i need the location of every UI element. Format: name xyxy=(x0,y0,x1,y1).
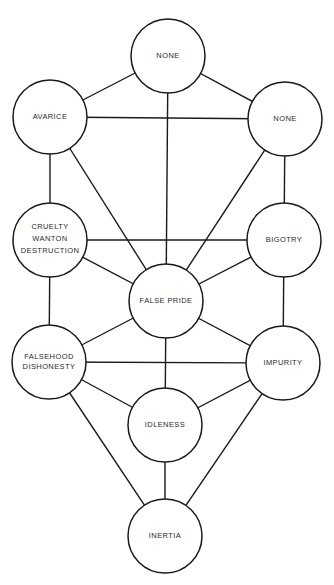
tree-diagram: NONEAVARICENONECRUELTYWANTONDESTRUCTIONB… xyxy=(0,0,334,585)
node-label: INERTIA xyxy=(149,531,181,540)
node-label: NONE xyxy=(273,114,296,123)
node-label: NONE xyxy=(156,51,179,60)
node-avarice: AVARICE xyxy=(13,80,87,154)
node-label: BIGOTRY xyxy=(266,235,302,244)
node-label: IDLENESS xyxy=(145,420,185,429)
node-label: WANTON xyxy=(32,234,67,243)
node-label: FALSEHOOD xyxy=(24,352,74,361)
node-idleness: IDLENESS xyxy=(128,388,202,462)
node-label: DESTRUCTION xyxy=(21,246,80,255)
node-cruelty: CRUELTYWANTONDESTRUCTION xyxy=(13,203,87,277)
node-bigotry: BIGOTRY xyxy=(247,203,321,277)
node-label: AVARICE xyxy=(33,112,68,121)
node-false-pride: FALSE PRIDE xyxy=(129,264,203,338)
node-falsehood: FALSEHOODDISHONESTY xyxy=(12,325,86,399)
node-label: IMPURITY xyxy=(263,358,302,367)
node-top: NONE xyxy=(131,19,205,93)
node-none-right: NONE xyxy=(248,82,322,156)
node-label: CRUELTY xyxy=(31,222,68,231)
node-label: DISHONESTY xyxy=(23,362,76,371)
node-impurity: IMPURITY xyxy=(246,326,320,400)
node-label: FALSE PRIDE xyxy=(140,296,193,305)
node-inertia: INERTIA xyxy=(128,499,202,573)
